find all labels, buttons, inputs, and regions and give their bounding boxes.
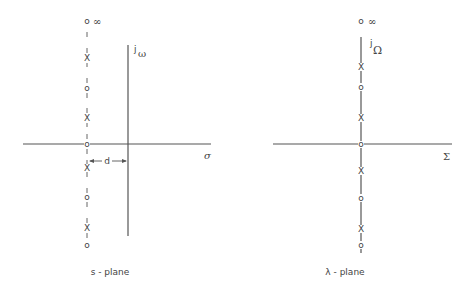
sigma-label: σ [204, 150, 212, 161]
zero-marker: o [84, 192, 90, 202]
j-label: j [369, 38, 373, 48]
zero-marker: o [84, 16, 90, 26]
s-plane-caption: s - plane [91, 267, 130, 277]
omega-label: ω [138, 48, 146, 59]
lambda-plane: o X o X o X o X o ∞ j Ω Σ λ - plane [273, 16, 452, 277]
zero-marker: o [358, 193, 364, 203]
Sigma-label: Σ [443, 151, 450, 162]
infinity-label: ∞ [93, 16, 101, 27]
pole-marker: X [84, 53, 90, 63]
infinity-label: ∞ [368, 16, 376, 27]
pole-marker: X [358, 224, 364, 234]
zero-marker: o [358, 139, 364, 149]
pole-marker: X [358, 166, 364, 176]
distance-d-label: d [104, 156, 110, 166]
j-label: j [133, 44, 137, 54]
zero-marker: o [84, 240, 90, 250]
pole-marker: X [358, 62, 364, 72]
zero-marker: o [358, 82, 364, 92]
pole-zero-diagram: o X o X o X o X o ∞ j ω σ d s - plane [0, 0, 467, 288]
pole-marker: X [84, 223, 90, 233]
zero-marker: o [358, 16, 364, 26]
zero-marker: o [84, 139, 90, 149]
pole-marker: X [84, 163, 90, 173]
Omega-label: Ω [373, 44, 382, 57]
pole-marker: X [84, 113, 90, 123]
s-plane: o X o X o X o X o ∞ j ω σ d s - plane [23, 16, 212, 277]
pole-marker: X [358, 113, 364, 123]
zero-marker: o [84, 83, 90, 93]
zero-marker: o [358, 240, 364, 250]
lambda-plane-caption: λ - plane [325, 267, 365, 277]
